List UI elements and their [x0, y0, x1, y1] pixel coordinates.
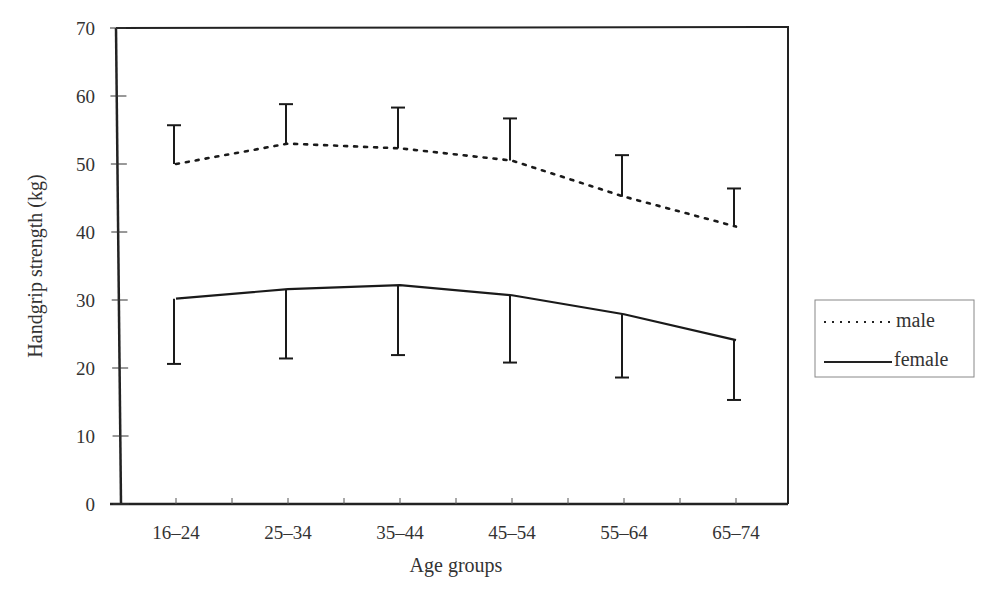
y-tick-label: 30 [76, 290, 95, 311]
y-tick-label: 0 [86, 494, 96, 515]
legend: male female [815, 300, 974, 377]
y-tick-label: 40 [76, 222, 95, 243]
x-tick-label: 35–44 [376, 522, 424, 543]
y-tick-label: 50 [76, 154, 95, 175]
handgrip-chart: 010203040506070 16–2425–3435–4445–5455–6… [0, 0, 994, 594]
x-tick-label: 65–74 [712, 522, 760, 543]
male-line [176, 144, 736, 227]
y-tick-label: 20 [76, 358, 95, 379]
legend-male-label: male [896, 309, 935, 331]
x-tick-label: 55–64 [600, 522, 648, 543]
y-axis-title: Handgrip strength (kg) [24, 174, 47, 357]
series-layer [167, 104, 741, 400]
x-tick-label: 16–24 [152, 522, 200, 543]
x-tick-label: 45–54 [488, 522, 536, 543]
y-tick-label: 60 [76, 86, 95, 107]
plot-frame [110, 27, 788, 504]
female-line [176, 285, 736, 340]
x-tick-label: 25–34 [264, 522, 312, 543]
legend-female-label: female [894, 348, 949, 370]
series-female [167, 285, 741, 400]
x-axis-title: Age groups [410, 554, 503, 577]
y-tick-label: 10 [76, 426, 95, 447]
series-male [167, 104, 741, 226]
y-tick-label: 70 [76, 18, 95, 39]
